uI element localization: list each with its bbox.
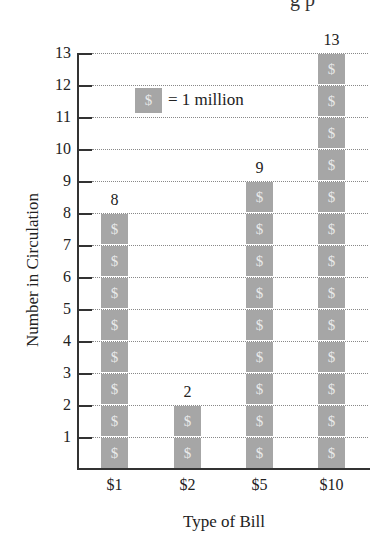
dollar-bill-icon: $ [318,310,345,340]
y-tick-label: 10 [41,141,71,157]
y-tick-label: 5 [41,301,71,317]
dollar-bill-icon: $ [101,310,128,340]
bar-dollar10: $$$$$$$$$$$$$ [318,53,345,469]
dollar-bill-icon: $ [318,342,345,372]
dollar-bill-icon: $ [318,374,345,404]
bar-dollar1: $$$$$$$$ [101,213,128,469]
dollar-bill-icon: $ [318,118,345,148]
y-tick-label: 8 [41,205,71,221]
y-axis-line [77,53,79,470]
dollar-bill-icon: $ [246,374,273,404]
dollar-bill-icon: $ [246,438,273,468]
y-tick-mark [77,437,92,439]
x-tick-label: $2 [180,476,196,494]
bar-value-label: 9 [256,159,264,177]
y-tick-mark [77,405,92,407]
dollar-bill-icon: $ [101,246,128,276]
dollar-bill-icon: $ [101,214,128,244]
dollar-bill-icon: $ [246,246,273,276]
y-tick-mark [77,181,92,183]
x-axis-title: Type of Bill [183,512,265,532]
bar-value-label: 2 [184,383,192,401]
dollar-bill-icon: $ [101,438,128,468]
y-tick-mark [77,309,92,311]
dollar-bill-icon: $ [101,342,128,372]
y-tick-label: 7 [41,237,71,253]
y-tick-label: 4 [41,333,71,349]
y-tick-mark [77,277,92,279]
dollar-bill-icon: $ [174,438,201,468]
y-tick-mark [77,341,92,343]
dollar-bill-icon: $ [101,406,128,436]
dollar-bill-icon: $ [318,150,345,180]
dollar-bill-icon: $ [318,438,345,468]
dollar-bill-icon: $ [174,406,201,436]
dollar-bill-icon: $ [246,406,273,436]
y-tick-label: 1 [41,429,71,445]
y-axis-title: Number in Circulation [23,193,43,347]
y-tick-label: 12 [41,77,71,93]
dollar-bill-icon: $ [101,278,128,308]
dollar-bill-icon: $ [246,182,273,212]
dollar-bill-icon: $ [318,214,345,244]
y-tick-label: 6 [41,269,71,285]
dollar-bill-icon: $ [246,310,273,340]
dollar-bill-icon: $ [318,54,345,84]
y-tick-mark [77,53,92,55]
x-tick-label: $1 [107,476,123,494]
y-tick-label: 9 [41,173,71,189]
x-tick-label: $10 [320,476,344,494]
legend-dollar-icon: $ [135,88,162,113]
y-tick-label: 11 [41,109,71,125]
y-tick-label: 2 [41,397,71,413]
y-tick-mark [77,245,92,247]
y-tick-mark [77,213,92,215]
dollar-bill-icon: $ [101,374,128,404]
y-tick-mark [77,373,92,375]
partial-heading: g p [290,0,315,11]
bar-dollar2: $$ [174,405,201,469]
legend-text: = 1 million [168,90,244,110]
bar-value-label: 8 [111,191,119,209]
bar-value-label: 13 [324,31,340,49]
dollar-bill-icon: $ [318,406,345,436]
dollar-bill-icon: $ [318,86,345,116]
y-tick-label: 3 [41,365,71,381]
dollar-bill-icon: $ [246,342,273,372]
bar-dollar5: $$$$$$$$$ [246,181,273,469]
dollar-bill-icon: $ [318,182,345,212]
y-tick-mark [77,149,92,151]
x-tick-label: $5 [252,476,268,494]
y-tick-mark [77,117,92,119]
y-tick-label: 13 [41,45,71,61]
y-tick-mark [77,85,92,87]
dollar-bill-icon: $ [246,278,273,308]
dollar-bill-icon: $ [318,278,345,308]
dollar-bill-icon: $ [246,214,273,244]
dollar-bill-icon: $ [318,246,345,276]
